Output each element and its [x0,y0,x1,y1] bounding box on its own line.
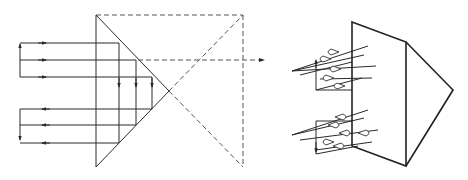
prism-3d [352,22,453,166]
upper-beams [292,46,376,90]
incoming-rays [20,43,152,77]
right-panel-3d [292,22,453,166]
internal-reflections [119,43,152,143]
prism-retroreflector-diagram [0,0,468,180]
lower-beams [292,110,378,154]
outgoing-rays [20,109,152,143]
left-panel-2d [20,15,264,167]
prism-triangle [96,15,169,167]
